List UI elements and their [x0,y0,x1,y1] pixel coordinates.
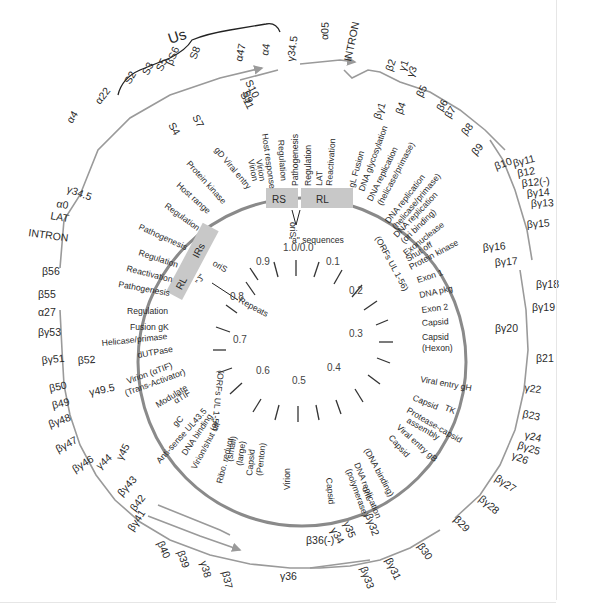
gene-label: βγ47 [53,433,79,454]
svg-text:Regulation: Regulation [276,139,289,181]
gene-label: βγ19 [532,301,555,313]
gene-label: βγ20 [495,322,518,334]
gene-label: β23 [522,407,542,422]
gene-label: S7 [190,112,207,129]
gene-label: INTRON [341,21,361,63]
map-scale-labels: 1.0/0.0 0.1 0.2 0.3 0.4 0.5 0.6 0.7 0.8 … [230,242,363,386]
gene-label: βγ13 [531,196,555,209]
gene-label: γ36 [280,570,297,582]
gene-label: β42 [127,492,147,513]
gene-label: β9 [469,140,486,157]
svg-text:Regulation: Regulation [303,145,313,186]
svg-text:Reactivation: Reactivation [324,138,337,186]
gene-label: βγ16 [482,239,506,253]
gene-label: γ34.5 [284,35,299,62]
gene-label: γ44 [93,451,114,471]
gene-label: β39 [175,549,192,570]
gene-label: βγ17 [494,254,518,268]
svg-text:Regulation: Regulation [127,306,168,316]
page-edge-bottom [0,602,556,603]
svg-text:0.6: 0.6 [256,365,270,376]
gene-label: β37 [220,570,235,590]
svg-text:Capsid: Capsid [324,477,337,505]
gene-label: LAT [50,209,71,224]
gene-label: β4 [393,100,408,115]
gene-label: β10 [493,154,514,171]
svg-text:0.9: 0.9 [256,256,270,267]
gene-label: βγ15 [526,216,550,230]
gene-label: γ34.5 [65,183,93,203]
svg-text:0.8: 0.8 [230,291,244,302]
gene-label: γ38 [198,559,214,579]
repeat-box-rl-top: RL [301,188,353,208]
gene-label: β21 [536,352,554,364]
gene-label: β55 [38,288,56,300]
svg-text:Pathogenesis: Pathogenesis [290,134,300,186]
svg-text:DNA pkg: DNA pkg [418,283,453,300]
gene-label: S2 [121,69,138,86]
gene-label: S8 [187,44,203,60]
svg-text:0.4: 0.4 [327,362,341,373]
gene-label: α4 [64,108,81,125]
svg-text:Capsid: Capsid [422,332,449,342]
gene-label: γ45 [113,441,132,462]
gene-label: α4 [258,42,272,56]
svg-text:(Hexon): (Hexon) [422,343,453,353]
function-labels: gD Viral entry Virion Virion Host respon… [101,124,472,520]
gene-label: β29 [452,513,473,534]
gene-label: S4 [166,120,183,137]
gene-label: βγ1 [371,100,388,120]
gene-labels: α22 S2 S3 S4 S5 βS6 S7 S8 S9 S10 S11 α47… [28,21,559,591]
gene-label: βγ31 [383,556,404,582]
genome-map-figure: RS RL RL IRs oriS "a" sequences Repeats … [0,0,604,616]
svg-text:RS: RS [272,194,286,205]
page-edge-right [556,0,557,600]
gene-label: β36(-) [306,534,334,546]
svg-text:LAT: LAT [314,170,325,186]
gene-label: βγ53 [38,326,61,338]
gene-label: γ3 [404,64,419,79]
gene-label: γ49.5 [88,381,116,398]
svg-text:dUTPase: dUTPase [137,344,174,360]
svg-text:0.3: 0.3 [349,328,363,339]
repeat-box-rs: RS [266,188,298,208]
a-sequences-annotation: oriS "a" sequences [288,210,344,245]
gene-label: α05 [318,22,331,40]
svg-text:Us: Us [166,25,189,47]
gene-label: α47 [232,42,247,62]
gene-label: βγ48 [47,411,73,430]
svg-text:1.0/0.0: 1.0/0.0 [283,242,314,253]
svg-text:Exon 2: Exon 2 [421,301,449,315]
gene-label: βγ27 [493,472,519,495]
gene-label: βS6 [163,45,182,67]
svg-text:RL: RL [316,194,329,205]
gene-label: β49 [51,395,71,411]
gene-label: α0 [56,197,70,211]
svg-text:oriS: oriS [211,258,229,274]
gene-label: β40 [155,539,173,560]
svg-text:(Penton): (Penton) [254,442,267,476]
gene-label: β2 [383,57,398,72]
gene-label: βγ51 [41,352,65,366]
gene-label: α22 [92,85,112,107]
svg-text:0.2: 0.2 [349,285,363,296]
genome-map-svg: RS RL RL IRs oriS "a" sequences Repeats … [0,0,604,616]
svg-text:Capsid: Capsid [421,316,449,328]
gene-label: β52 [77,353,96,366]
gene-label: βγ33 [358,565,377,591]
svg-text:0.5: 0.5 [292,375,306,386]
svg-text:Virion: Virion [282,468,292,490]
gene-label: β5 [413,83,429,99]
gene-label: α27 [38,306,56,318]
gene-label: βγ28 [477,492,502,516]
svg-text:Pathogenesis: Pathogenesis [137,222,189,252]
gene-label: γ22 [524,381,543,395]
gene-label: β8 [458,120,475,137]
gene-label: βγ46 [70,452,96,474]
svg-text:TK: TK [443,403,457,416]
svg-text:Exon 1: Exon 1 [416,267,445,285]
svg-text:0.1: 0.1 [326,256,340,267]
svg-text:Fusion gK: Fusion gK [130,322,169,332]
gene-label: β56 [42,265,60,277]
svg-text:0.7: 0.7 [233,334,247,345]
